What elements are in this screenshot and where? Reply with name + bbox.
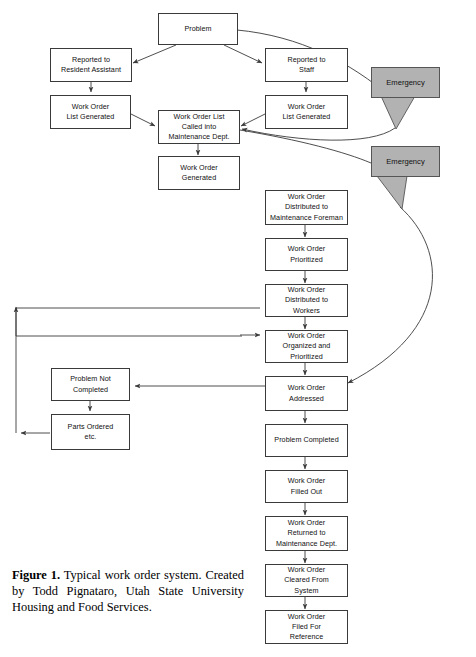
emergency-callout-tail-1: [371, 95, 441, 131]
node-work-order-generated[interactable]: Work Order Generated: [158, 156, 240, 190]
edge-problem-to-reported-ra: [133, 45, 176, 63]
node-work-order-filed-for-reference[interactable]: Work Order Filed For Reference: [265, 610, 348, 644]
node-work-order-list-generated-right[interactable]: Work Order List Generated: [265, 95, 348, 129]
figure-container: Problem Reported to Resident Assistant R…: [0, 0, 476, 657]
node-work-order-addressed[interactable]: Work Order Addressed: [265, 376, 348, 411]
edge-wolist-left-to-called-in: [131, 114, 155, 126]
edge-left-rail-return: [16, 308, 242, 336]
node-problem[interactable]: Problem: [158, 13, 238, 45]
node-reported-to-resident-assistant[interactable]: Reported to Resident Assistant: [50, 48, 132, 82]
edge-wolist-right-to-emergency2: [240, 130, 371, 163]
node-work-order-organized-and-prioritized[interactable]: Work Order Organized and Prioritized: [265, 330, 348, 363]
figure-caption-label: Figure 1.: [12, 568, 60, 582]
node-work-order-filled-out[interactable]: Work Order Filled Out: [265, 470, 348, 503]
node-work-order-distributed-to-maintenance-foreman[interactable]: Work Order Distributed to Maintenance Fo…: [265, 190, 348, 225]
node-work-order-distributed-to-workers[interactable]: Work Order Distributed to Workers: [265, 284, 348, 317]
callout-emergency-2[interactable]: Emergency: [371, 146, 440, 177]
figure-caption: Figure 1. Typical work order system. Cre…: [12, 567, 244, 615]
edge-emergency2-to-wo-addressed: [348, 207, 432, 383]
node-parts-ordered[interactable]: Parts Ordered etc.: [51, 414, 130, 450]
edge-wolist-right-to-called-in: [241, 114, 265, 126]
callout-emergency-1[interactable]: Emergency: [371, 67, 440, 98]
edge-problem-to-reported-staff: [224, 45, 262, 63]
node-problem-not-completed[interactable]: Problem Not Completed: [51, 368, 130, 401]
node-work-order-list-called-into-maintenance-dept[interactable]: Work Order List Called into Maintenance …: [158, 110, 240, 144]
node-work-order-returned-to-maintenance-dept[interactable]: Work Order Returned to Maintenance Dept.: [265, 516, 348, 551]
node-work-order-cleared-from-system[interactable]: Work Order Cleared From System: [265, 564, 348, 597]
emergency-callout-tail-2: [371, 175, 441, 211]
node-reported-to-staff[interactable]: Reported to Staff: [265, 48, 348, 82]
node-problem-completed[interactable]: Problem Completed: [265, 424, 348, 457]
node-work-order-prioritized[interactable]: Work Order Prioritized: [265, 238, 348, 271]
node-work-order-list-generated-left[interactable]: Work Order List Generated: [50, 95, 131, 129]
